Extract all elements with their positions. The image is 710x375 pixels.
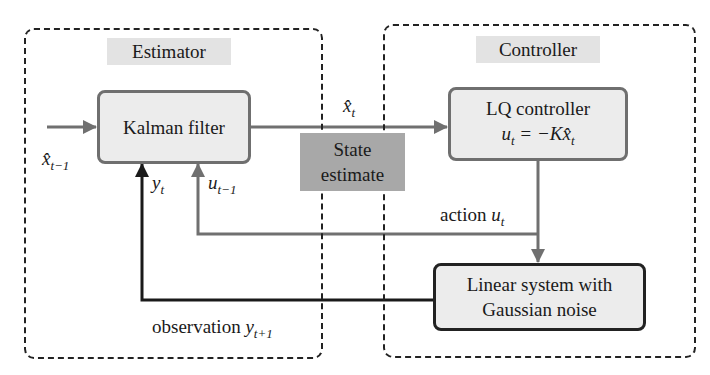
estimator-label: Estimator (107, 38, 231, 65)
lq-controller-label: LQ controller (486, 96, 590, 121)
linear-system-block[interactable]: Linear system with Gaussian noise (433, 263, 646, 331)
observation-label: observation yt+1 (152, 316, 273, 342)
prev-action-input-label: ut−1 (208, 172, 236, 198)
state-estimate-box: State estimate (300, 133, 405, 191)
controller-label: Controller (476, 36, 600, 63)
action-label: action ut (440, 204, 504, 230)
current-estimate-label: x̂t (343, 95, 355, 121)
linear-system-line1: Linear system with (467, 272, 613, 297)
observation-input-label: yt (152, 172, 164, 198)
kalman-filter-label: Kalman filter (123, 115, 225, 140)
kalman-filter-block[interactable]: Kalman filter (97, 90, 251, 164)
control-law: ut = −Kx̂t (501, 121, 574, 153)
linear-system-line2: Gaussian noise (482, 297, 597, 322)
lq-controller-block[interactable]: LQ controller ut = −Kx̂t (448, 87, 628, 161)
prev-estimate-label: x̂t−1 (42, 148, 69, 174)
estimator-group (24, 28, 323, 359)
state-estimate-line1: State (334, 137, 372, 162)
state-estimate-line2: estimate (321, 162, 384, 187)
